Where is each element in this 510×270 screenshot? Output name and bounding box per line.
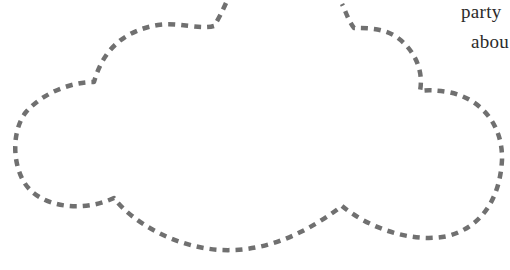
text-line-about: abou bbox=[471, 31, 509, 53]
cloud-dashed-path bbox=[15, 3, 502, 250]
cloud-outline-icon bbox=[0, 0, 510, 270]
text-line-party: party bbox=[461, 1, 502, 23]
